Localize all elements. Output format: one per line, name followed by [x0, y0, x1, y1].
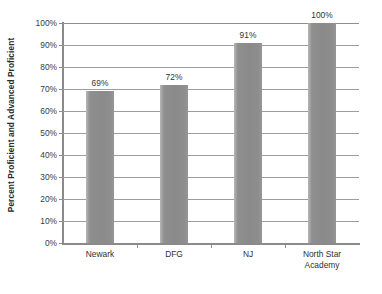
y-tick-label: 100%: [36, 18, 57, 28]
y-tick-mark: [59, 155, 63, 156]
x-tick-label-line: NJ: [243, 249, 253, 260]
y-tick-label: 0%: [45, 238, 57, 248]
x-tick-label: NJ: [243, 249, 253, 260]
x-axis-tick-labels: NewarkDFGNJNorth StarAcademy: [63, 249, 359, 294]
y-tick-label: 60%: [40, 106, 57, 116]
x-tick-label: North StarAcademy: [303, 249, 341, 270]
x-tick-label: DFG: [165, 249, 183, 260]
y-tick-label: 70%: [40, 84, 57, 94]
y-tick-label: 50%: [40, 128, 57, 138]
y-tick-mark: [59, 221, 63, 222]
y-axis-tick-labels: 0%10%20%30%40%50%60%70%80%90%100%: [22, 23, 61, 243]
x-tick-label: Newark: [86, 249, 114, 260]
x-tick-label-line: DFG: [165, 249, 183, 260]
y-tick-mark: [59, 177, 63, 178]
bar: [234, 43, 262, 243]
bar: [86, 91, 114, 243]
bar-chart: Percent Proficient and Advanced Proficie…: [0, 0, 382, 294]
y-tick-mark: [59, 23, 63, 24]
x-tick-label-line: North Star: [303, 249, 341, 260]
plot-area: 69%72%91%100%: [63, 23, 359, 243]
y-tick-mark: [59, 133, 63, 134]
x-tick-label-line: Academy: [303, 260, 341, 271]
y-tick-mark: [59, 243, 63, 244]
y-axis-title: Percent Proficient and Advanced Proficie…: [0, 0, 22, 250]
y-tick-label: 40%: [40, 150, 57, 160]
bar-value-label: 100%: [311, 10, 332, 20]
bar-value-label: 69%: [92, 78, 109, 88]
x-tick-mark: [211, 244, 212, 248]
bar-value-label: 91%: [240, 30, 257, 40]
y-tick-label: 30%: [40, 172, 57, 182]
bar-value-label: 72%: [166, 72, 183, 82]
y-tick-mark: [59, 199, 63, 200]
y-tick-label: 10%: [40, 216, 57, 226]
y-tick-mark: [59, 89, 63, 90]
y-axis-title-text: Percent Proficient and Advanced Proficie…: [6, 38, 16, 212]
bar: [308, 23, 336, 243]
x-tick-mark: [137, 244, 138, 248]
y-tick-mark: [59, 67, 63, 68]
y-tick-label: 90%: [40, 40, 57, 50]
y-tick-mark: [59, 45, 63, 46]
bar: [160, 85, 188, 243]
x-tick-mark: [285, 244, 286, 248]
x-tick-label-line: Newark: [86, 249, 114, 260]
y-tick-label: 80%: [40, 62, 57, 72]
y-tick-label: 20%: [40, 194, 57, 204]
y-tick-mark: [59, 111, 63, 112]
